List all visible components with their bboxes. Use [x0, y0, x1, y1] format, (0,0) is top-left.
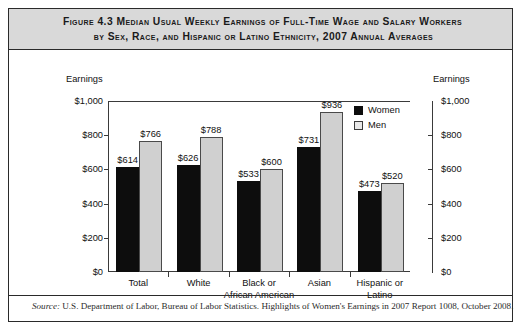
bar-value-label: $788 [193, 125, 229, 135]
y-tick-mark-left [104, 135, 109, 136]
category-boundary-tick [350, 272, 351, 277]
figure-container: Figure 4.3 Median Usual Weekly Earnings … [8, 8, 513, 322]
figure-title-line-1: Figure 4.3 Median Usual Weekly Earnings … [9, 14, 512, 29]
bar-value-label: $600 [254, 157, 290, 167]
y-tick-label-right: $0 [441, 267, 451, 277]
category-boundary-tick [229, 272, 230, 277]
right-axis-caption: Earnings [433, 74, 470, 84]
y-tick-label-right: $800 [441, 130, 462, 140]
y-tick-label-right: $1,000 [441, 96, 469, 106]
bar-women-4 [358, 191, 381, 272]
bar-value-label: $766 [133, 129, 169, 139]
bar-men-1 [200, 137, 223, 272]
y-tick-label-right: $200 [441, 233, 462, 243]
y-tick-label-left: $200 [47, 233, 103, 243]
y-tick-mark-right [428, 169, 433, 170]
chart-area: Earnings Earnings $0$0$200$200$400$400$6… [9, 50, 512, 296]
y-tick-mark-left [104, 238, 109, 239]
bar-women-2 [237, 181, 260, 272]
right-axis-line [432, 101, 433, 273]
bar-women-1 [177, 165, 200, 272]
bar-men-0 [139, 141, 162, 272]
bar-men-3 [320, 112, 343, 272]
legend-swatch-women-icon [354, 106, 363, 115]
y-tick-mark-right [428, 135, 433, 136]
y-tick-label-left: $800 [47, 130, 103, 140]
source-band: Source: U.S. Department of Labor, Bureau… [9, 295, 512, 321]
bar-men-4 [381, 183, 404, 272]
y-tick-label-left: $0 [47, 267, 103, 277]
legend-item-men: Men [354, 118, 424, 132]
legend-label-men: Men [368, 120, 386, 130]
bar-women-3 [297, 147, 320, 272]
y-tick-label-left: $1,000 [47, 96, 103, 106]
y-tick-mark-left [104, 169, 109, 170]
bar-value-label: $936 [314, 100, 350, 110]
source-prefix: Source: [32, 301, 60, 311]
figure-title-band: Figure 4.3 Median Usual Weekly Earnings … [9, 9, 512, 50]
left-axis-caption: Earnings [66, 74, 103, 84]
y-tick-label-right: $400 [441, 199, 462, 209]
category-boundary-tick [168, 272, 169, 277]
y-tick-label-left: $400 [47, 199, 103, 209]
y-tick-label-right: $600 [441, 164, 462, 174]
y-tick-mark-right [428, 204, 433, 205]
legend-item-women: Women [354, 103, 424, 117]
source-body: U.S. Department of Labor, Bureau of Labo… [62, 301, 513, 311]
y-tick-mark-right [428, 238, 433, 239]
bar-women-0 [116, 167, 139, 272]
figure-title-line-2: by Sex, Race, and Hispanic or Latino Eth… [9, 29, 512, 44]
legend-label-women: Women [368, 105, 400, 115]
y-tick-mark-left [104, 204, 109, 205]
source-note: Source: U.S. Department of Labor, Bureau… [32, 301, 513, 311]
y-tick-label-left: $600 [47, 164, 103, 174]
bar-men-2 [260, 169, 283, 272]
category-label-line: Hispanic or [338, 278, 422, 290]
category-boundary-tick [289, 272, 290, 277]
bar-value-label: $520 [374, 171, 410, 181]
legend-swatch-men-icon [354, 121, 363, 130]
chart-legend: Women Men [354, 103, 424, 133]
